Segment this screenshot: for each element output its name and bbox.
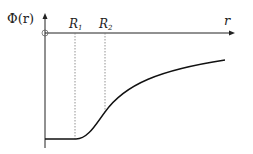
y-axis-arrow-icon: [43, 13, 48, 19]
x-axis-arrow-icon: [229, 31, 235, 36]
potential-curve: [45, 60, 225, 139]
y-axis-label: Φ(r): [7, 11, 34, 26]
potential-diagram: Φ(r) r R1 R2: [0, 0, 253, 154]
r1-label: R1: [68, 17, 83, 32]
x-axis-label: r: [224, 13, 231, 28]
r2-label: R2: [98, 17, 113, 32]
